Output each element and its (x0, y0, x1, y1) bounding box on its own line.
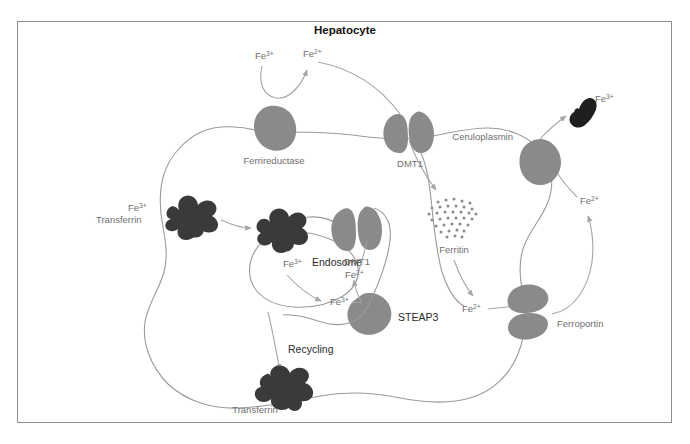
recycling-arrow (268, 312, 280, 370)
recycling-label: Recycling (288, 343, 334, 355)
fe3-in-endosome-sup: 3+ (294, 258, 302, 265)
ferroportin-protein[interactable]: Ferroportin (507, 285, 603, 340)
fe2-to-ceruloplasmin-arrow (556, 171, 577, 197)
fe2-exported-sup: 2+ (591, 195, 599, 202)
channel-protein-icon-upper (507, 285, 548, 314)
transferrin-extracellular-label: Transferrin (96, 214, 142, 225)
fe3-in-endosome-label: Fe3+ (283, 258, 302, 270)
fe3-extracellular-apical-sup: 3+ (266, 50, 274, 57)
apical-reduction-group: Fe3+ Fe2+ (255, 48, 322, 99)
internalization-arrow (221, 220, 251, 228)
fe2-exported-label: Fe2+ (580, 195, 599, 207)
fe2-endosome-export-label: Fe2+ (345, 269, 364, 281)
ceruloplasmin-label: Ceruloplasmin (452, 131, 513, 142)
fe2-exported-base: Fe (580, 195, 591, 206)
fe2-reduced-apical-label: Fe2+ (303, 48, 322, 60)
fe2-reduced-apical-sup: 2+ (314, 48, 322, 55)
figure-frame: Hepatocyte Fe3+ Fe2+ Ferrireductase (17, 21, 672, 423)
dmt1-endosome-label: DMT1 (344, 256, 370, 267)
fe2-to-dmt1-arrow (318, 62, 400, 114)
ferroportin-export-arrow (552, 216, 593, 314)
reduction-arrow (261, 66, 307, 98)
fe3-oxidized-export-base: Fe (595, 93, 606, 104)
figure-root: Hepatocyte Fe3+ Fe2+ Ferrireductase (0, 0, 690, 444)
ceruloplasmin-oxidation-arrow (540, 116, 566, 139)
protein-blob-icon (519, 139, 561, 185)
fe2-cytosolic-pool-base: Fe (462, 303, 473, 314)
channel-protein-icon-left (331, 208, 356, 251)
fe3-extracellular-apical-base: Fe (255, 50, 266, 61)
figure-caption-strip (17, 431, 672, 444)
transferrin-recycled[interactable]: Transferrin (232, 365, 313, 415)
fe3-endosome-internal-arrow (287, 275, 321, 301)
steap3-label: STEAP3 (398, 311, 438, 323)
ceruloplasmin-protein[interactable]: Ceruloplasmin Fe3+ (452, 93, 614, 186)
fe3-oxidized-export-label: Fe3+ (595, 93, 614, 105)
figure-title: Hepatocyte (314, 24, 376, 36)
recycling-pathway: Recycling (268, 312, 334, 370)
channel-protein-icon-left (383, 114, 408, 153)
fe3-oxidized-export-sup: 3+ (606, 93, 614, 100)
fe2-reduced-apical-base: Fe (303, 48, 314, 59)
cytosolic-iron-pool: Fe2+ (421, 153, 528, 314)
fe3-transferrin-sup: 3+ (139, 202, 147, 209)
fe3-transferrin-base: Fe (128, 202, 139, 213)
ferroportin-label: Ferroportin (557, 318, 603, 329)
fe3-endosome-lumen-label: Fe3+ (330, 296, 349, 308)
fe3-in-endosome-base: Fe (283, 258, 294, 269)
protein-blob-icon (254, 106, 296, 151)
transferrin-extracellular[interactable]: Fe3+ Transferrin (96, 195, 251, 240)
ferritin-store[interactable]: Ferritin (428, 198, 478, 297)
fe2-endosome-export-sup: 2+ (356, 269, 364, 276)
fe2-cytosolic-pool-label: Fe2+ (462, 303, 481, 315)
ferrireductase-label: Ferrireductase (243, 155, 304, 166)
hepatocyte-iron-diagram: Hepatocyte Fe3+ Fe2+ Ferrireductase (18, 22, 671, 422)
dmt1-membrane-label: DMT1 (397, 158, 423, 169)
iron-export-group: Fe2+ (552, 171, 599, 314)
fe2-endosome-export-base: Fe (345, 269, 356, 280)
channel-protein-icon-right (358, 207, 382, 250)
fe3-extracellular-apical-label: Fe3+ (255, 50, 274, 62)
ferritin-to-cytosol-arrow (454, 260, 473, 296)
fe3-endosome-lumen-base: Fe (330, 296, 341, 307)
ferrireductase-protein[interactable]: Ferrireductase (243, 106, 304, 166)
fe3-transferrin-bound-label: Fe3+ (128, 202, 147, 214)
protein-blob-icon (347, 293, 391, 335)
channel-protein-icon-right (409, 112, 434, 153)
fe3-endosome-lumen-sup: 3+ (341, 296, 349, 303)
channel-protein-icon-lower (508, 313, 548, 340)
ferritin-label: Ferritin (439, 244, 469, 255)
transferrin-recycled-label: Transferrin (232, 404, 278, 415)
fe2-cytosolic-pool-sup: 2+ (473, 303, 481, 310)
